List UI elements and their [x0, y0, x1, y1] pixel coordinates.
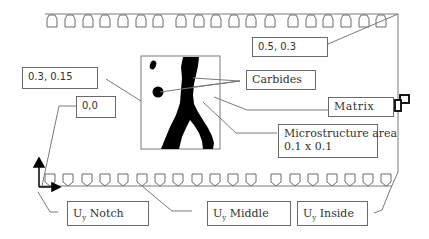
bottom-support-icon — [192, 174, 202, 186]
bottom-support-icon — [155, 174, 165, 186]
bottom-supports — [45, 174, 391, 186]
top-support-icon — [306, 15, 316, 27]
microstructure-area-title: Microstructure area — [284, 127, 372, 140]
top-support-icon — [211, 15, 221, 27]
coord-label-0.3-0.15: 0.3, 0.15 — [22, 67, 98, 89]
uy-symbol: U — [303, 207, 312, 220]
origin-label: 0,0 — [76, 96, 116, 118]
top-support-icon — [359, 15, 369, 27]
matrix-label: Matrix — [328, 97, 394, 117]
carbides-label: Carbides — [246, 70, 316, 90]
top-support-icon — [323, 15, 333, 27]
bottom-support-icon — [327, 174, 337, 186]
uy-inside-label: Uy Inside — [297, 201, 368, 226]
top-support-icon — [176, 15, 186, 27]
uy-symbol: U — [73, 207, 82, 220]
bottom-support-icon — [82, 174, 92, 186]
top-support-icon — [83, 15, 93, 27]
bottom-support-icon — [308, 174, 318, 186]
top-support-icon — [118, 15, 128, 27]
top-support-icon — [47, 15, 57, 27]
leader-matrix — [214, 97, 328, 110]
bottom-support-icon — [100, 174, 110, 186]
top-support-icon — [100, 15, 110, 27]
top-support-icon — [65, 15, 75, 27]
bottom-support-icon — [271, 174, 281, 186]
top-support-icon — [288, 15, 298, 27]
uy-notch-text: Notch — [86, 207, 123, 220]
bottom-support-icon — [228, 174, 238, 186]
top-support-icon — [153, 15, 163, 27]
uy-middle-text: Middle — [226, 207, 268, 220]
top-support-icon — [229, 15, 239, 27]
bottom-support-icon — [118, 174, 128, 186]
microstructure-area-label: Microstructure area 0.1 x 0.1 — [278, 124, 378, 158]
bottom-support-icon — [345, 174, 355, 186]
top-supports — [47, 15, 386, 27]
bottom-support-icon — [363, 174, 373, 186]
microstructure-area-size: 0.1 x 0.1 — [284, 140, 372, 153]
microstructure-image — [141, 56, 220, 149]
top-support-icon — [265, 15, 275, 27]
uy-notch-label: Uy Notch — [67, 201, 149, 226]
top-support-icon — [341, 15, 351, 27]
bottom-support-icon — [246, 174, 256, 186]
bottom-support-icon — [137, 174, 147, 186]
leader-uy-notch — [38, 192, 58, 212]
leader-uy-middle — [142, 186, 192, 211]
corner-marker-icon — [395, 95, 409, 111]
bottom-support-icon — [381, 174, 391, 186]
bottom-support-icon — [173, 174, 183, 186]
coord-label-0.5-0.3: 0.5, 0.3 — [252, 37, 328, 57]
uy-symbol: U — [213, 207, 222, 220]
uy-inside-text: Inside — [316, 207, 354, 220]
bottom-support-icon — [290, 174, 300, 186]
bottom-support-icon — [63, 174, 73, 186]
top-support-icon — [194, 15, 204, 27]
bottom-support-icon — [210, 174, 220, 186]
top-support-icon — [136, 15, 146, 27]
top-support-icon — [246, 15, 256, 27]
uy-middle-label: Uy Middle — [207, 201, 291, 226]
